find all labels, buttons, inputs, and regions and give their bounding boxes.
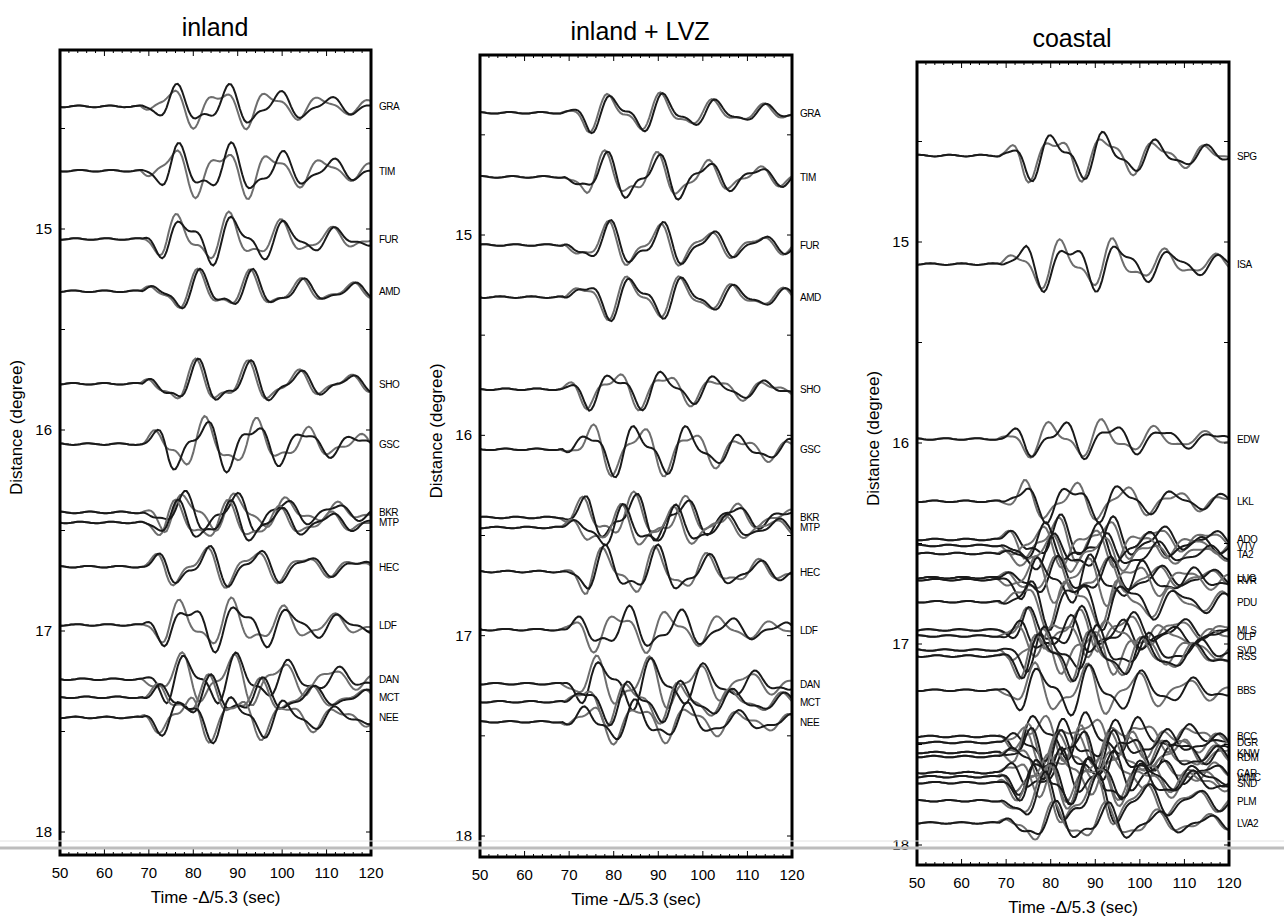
traces [917,132,1229,840]
synthetic-trace-amd [60,269,371,308]
synthetic-trace-hec [480,546,792,594]
x-tick-label: 120 [358,864,383,881]
station-label: SHO [800,384,821,395]
observed-trace-ldf [480,606,792,646]
station-label: RSS [1237,651,1257,662]
station-label: GSC [800,444,820,455]
y-axis-label: Distance (degree) [864,371,883,506]
station-label: NEE [800,717,820,728]
synthetic-trace-gra [60,91,371,130]
observed-trace-sho [480,372,792,411]
x-tick-label: 80 [1042,874,1059,891]
x-tick-label: 110 [315,864,339,881]
observed-trace-tim [60,142,371,188]
y-tick-label: 15 [892,233,909,250]
x-tick-label: 100 [270,864,295,881]
station-label: MCT [379,692,400,703]
y-tick-label: 16 [892,434,909,451]
y-tick-label: 18 [35,823,52,840]
synthetic-trace-bbs [917,662,1229,713]
observed-trace-sho [60,359,371,401]
x-tick-label: 100 [1127,874,1152,891]
station-label: GRA [800,108,821,119]
station-label: PDU [1237,597,1257,608]
station-label: ISA [1237,259,1252,270]
x-tick-label: 50 [909,874,926,891]
station-label: SND [1237,778,1257,789]
x-tick-label: 90 [229,864,246,881]
station-label: LVA2 [1237,818,1259,829]
x-tick-label: 70 [141,864,158,881]
observed-trace-gsc [60,422,371,473]
x-tick-label: 60 [96,864,113,881]
x-tick-label: 80 [185,864,202,881]
seismogram-figure: inlandGRATIMFURAMDSHOGSCBKRMTPHECLDFDANM… [0,0,1284,920]
x-axis-label: Time -Δ/5.3 (sec) [571,890,701,909]
panel-title: inland + LVZ [570,17,709,45]
station-label: LKL [1237,496,1254,507]
x-tick-label: 80 [605,866,622,883]
panel-title: coastal [1032,24,1111,52]
panel-title: inland [182,13,249,41]
observed-trace-rvr [917,554,1229,602]
x-axis: 5060708090100110120Time -Δ/5.3 (sec) [472,55,805,909]
station-label: BBS [1237,685,1256,696]
station-label: SPG [1237,151,1257,162]
synthetic-trace-sho [480,374,792,410]
x-tick-label: 90 [1087,874,1104,891]
synthetic-trace-amd [480,276,792,320]
synthetic-trace-nee [480,708,792,745]
synthetic-trace-tim [60,151,371,200]
y-tick-label: 15 [455,226,472,243]
station-label: MCT [800,697,821,708]
x-axis-label: Time -Δ/5.3 (sec) [1008,898,1138,917]
station-label: MTP [379,517,399,528]
observed-trace-tim [480,152,792,200]
synthetic-trace-edw [917,419,1229,458]
station-label: LDF [800,625,818,636]
x-tick-label: 70 [998,874,1015,891]
x-axis-label: Time -Δ/5.3 (sec) [151,888,281,907]
station-label: GRA [379,101,400,112]
x-tick-label: 100 [690,866,715,883]
station-label: FUR [800,240,819,251]
y-tick-label: 16 [455,426,472,443]
x-tick-label: 70 [561,866,578,883]
station-label: DAN [379,674,399,685]
x-tick-label: 120 [779,866,804,883]
synthetic-trace-tim [480,150,792,193]
station-label: RVR [1237,575,1257,586]
station-label: PLM [1237,796,1256,807]
observed-trace-spg [917,132,1229,181]
observed-trace-amd [60,269,371,309]
x-tick-label: 120 [1216,874,1241,891]
panel-inland-lvz: inland + LVZGRATIMFURAMDSHOGSCBKRMTPHECL… [427,17,821,909]
station-label: DAN [800,679,820,690]
station-label: TIM [379,166,395,177]
observed-trace-gra [60,84,371,123]
station-label: RDM [1237,752,1258,763]
y-tick-label: 17 [892,635,909,652]
synthetic-trace-spg [917,139,1229,182]
synthetic-trace-ldf [60,597,371,643]
observed-trace-mtp [60,500,371,541]
observed-trace-hec [480,545,792,589]
traces [480,92,792,744]
synthetic-trace-mtp [60,500,371,536]
observed-trace-bbs [917,665,1229,716]
station-label: GSC [379,439,399,450]
synthetic-trace-fur [60,212,371,259]
station-label: FUR [379,234,398,245]
y-tick-label: 17 [35,622,52,639]
observed-trace-isa [917,246,1229,292]
x-tick-label: 90 [650,866,667,883]
station-label: SHO [379,379,400,390]
observed-trace-edw [917,422,1229,459]
observed-trace-nee [60,697,371,743]
observed-trace-ldf [60,607,371,652]
x-axis: 5060708090100110120Time -Δ/5.3 (sec) [52,50,384,907]
panel-inland: inlandGRATIMFURAMDSHOGSCBKRMTPHECLDFDANM… [7,13,400,907]
y-tick-label: 18 [892,836,909,853]
panel-coastal: coastalSPGISAEDWLKLADOVTVTA2LUGRVRPDUMLS… [864,24,1261,917]
y-axis-label: Distance (degree) [427,363,446,498]
